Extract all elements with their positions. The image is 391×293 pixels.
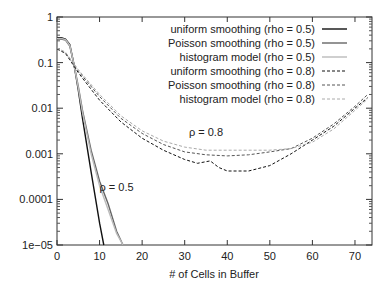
legend-label: Poisson smoothing (rho = 0.5) — [168, 37, 315, 49]
legend-label: Poisson smoothing (rho = 0.8) — [168, 79, 315, 91]
legend: uniform smoothing (rho = 0.5)Poisson smo… — [168, 23, 347, 105]
annotations: ρ = 0.8ρ = 0.5 — [100, 126, 223, 194]
legend-label: uniform smoothing (rho = 0.8) — [170, 65, 315, 77]
x-tick-label: 50 — [264, 250, 276, 262]
x-tick-label: 30 — [179, 250, 191, 262]
x-tick-label: 10 — [93, 250, 105, 262]
legend-label: histogram model (rho = 0.8) — [180, 93, 315, 105]
x-tick-label: 0 — [54, 250, 60, 262]
series-line-0 — [57, 38, 104, 245]
x-axis-label: # of Cells in Buffer — [169, 268, 259, 280]
annotation-label: ρ = 0.5 — [100, 181, 134, 193]
annotation-label: ρ = 0.8 — [189, 126, 223, 138]
y-tick-label: 0.0001 — [19, 193, 53, 205]
legend-label: uniform smoothing (rho = 0.5) — [170, 23, 315, 35]
y-tick-label: 0.01 — [32, 102, 53, 114]
x-tick-label: 60 — [306, 250, 318, 262]
line-chart: 0102030405060701e−050.00010.0010.010.11 … — [0, 0, 391, 293]
x-tick-label: 40 — [221, 250, 233, 262]
y-tick-label: 0.1 — [38, 57, 53, 69]
y-tick-label: 1e−05 — [22, 239, 53, 251]
x-tick-label: 70 — [349, 250, 361, 262]
y-tick-label: 0.001 — [25, 148, 53, 160]
series-line-1 — [57, 39, 123, 245]
y-tick-label: 1 — [47, 11, 53, 23]
series-line-2 — [57, 38, 123, 245]
x-tick-label: 20 — [136, 250, 148, 262]
legend-label: histogram model (rho = 0.5) — [180, 51, 315, 63]
